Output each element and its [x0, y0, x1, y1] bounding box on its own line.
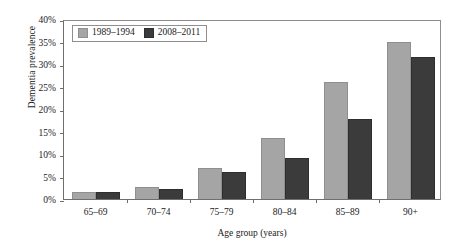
legend-swatch-icon: [144, 28, 154, 38]
x-tick-mark: [316, 199, 317, 203]
y-tick-label: 35%: [39, 39, 60, 49]
bar: [96, 192, 120, 199]
legend: 1989–19942008–2011: [72, 25, 207, 42]
bar-group: [127, 187, 190, 199]
y-tick-label: 40%: [39, 16, 60, 26]
x-tick-label: 75–79: [210, 207, 234, 217]
legend-label: 1989–1994: [92, 28, 135, 38]
y-tick-mark: [60, 201, 64, 202]
chart-figure: Dementia prevalence 0%5%10%15%20%25%30%3…: [0, 0, 464, 250]
y-tick-label: 25%: [39, 84, 60, 94]
legend-entry: 1989–1994: [78, 28, 135, 38]
bar: [411, 57, 435, 199]
bar: [198, 168, 222, 200]
x-tick-label: 90+: [403, 207, 418, 217]
x-tick-label: 70–74: [147, 207, 171, 217]
x-tick-mark: [127, 199, 128, 203]
y-tick-mark: [60, 178, 64, 179]
y-tick-mark: [60, 133, 64, 134]
bar-group: [253, 138, 316, 199]
bar: [285, 158, 309, 199]
y-tick-label: 20%: [39, 106, 60, 116]
y-axis-title: Dementia prevalence: [27, 0, 37, 147]
bar: [324, 82, 348, 199]
x-tick-mark: [253, 199, 254, 203]
y-tick-label: 0%: [43, 196, 60, 206]
bar: [222, 172, 246, 199]
x-tick-label: 80–84: [273, 207, 297, 217]
y-tick-mark: [60, 111, 64, 112]
bar: [72, 192, 96, 199]
y-tick-label: 15%: [39, 129, 60, 139]
y-tick-mark: [60, 88, 64, 89]
legend-swatch-icon: [78, 28, 88, 38]
bar-group: [190, 168, 253, 200]
bar: [135, 187, 159, 199]
y-tick-mark: [60, 21, 64, 22]
x-tick-label: 85–89: [336, 207, 360, 217]
y-tick-label: 30%: [39, 61, 60, 71]
x-axis-title: Age group (years): [63, 228, 441, 238]
y-tick-mark: [60, 156, 64, 157]
bar: [261, 138, 285, 199]
x-tick-label: 65–69: [84, 207, 108, 217]
y-tick-mark: [60, 66, 64, 67]
plot-area: 0%5%10%15%20%25%30%35%40% 65–6970–7475–7…: [63, 20, 441, 200]
bar-group: [316, 82, 379, 199]
x-tick-mark: [190, 199, 191, 203]
y-tick-label: 10%: [39, 151, 60, 161]
bar-group: [379, 42, 442, 199]
y-tick-label: 5%: [43, 174, 60, 184]
bar: [159, 189, 183, 199]
bar-group: [64, 192, 127, 199]
y-tick-mark: [60, 43, 64, 44]
legend-label: 2008–2011: [158, 28, 200, 38]
bar: [387, 42, 411, 199]
bar: [348, 119, 372, 199]
x-tick-mark: [379, 199, 380, 203]
legend-entry: 2008–2011: [144, 28, 200, 38]
